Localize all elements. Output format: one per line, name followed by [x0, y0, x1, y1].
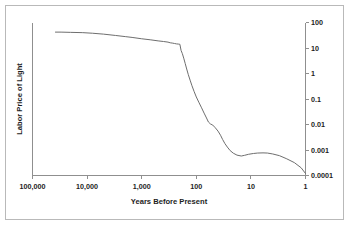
x-tick-label-1: 10,000	[76, 182, 98, 191]
x-tick-label-0: 100,000	[20, 182, 46, 191]
x-tick-label-3: 100	[190, 182, 202, 191]
y-tick-label-2: 1	[311, 69, 315, 78]
y-tick-label-0: 100	[311, 18, 323, 27]
y-tick-label-5: 0.001	[311, 146, 329, 155]
x-tick-label-4: 10	[247, 182, 255, 191]
figure-container: 100,000 10,000 1,000 100 10 1 100 10 1 0…	[0, 0, 350, 226]
y-tick-label-1: 10	[311, 44, 319, 53]
x-axis-title: Years Before Present	[131, 197, 208, 206]
x-tick-labels: 100,000 10,000 1,000 100 10 1	[20, 182, 308, 191]
x-tick-label-2: 1,000	[133, 182, 151, 191]
y-tick-label-4: 0.01	[311, 120, 325, 129]
x-tick-label-5: 1	[304, 182, 308, 191]
data-curve-labor-price-of-light	[55, 32, 305, 173]
y-axis-title: Labor Price of Light	[15, 63, 24, 135]
chart-svg: 100,000 10,000 1,000 100 10 1 100 10 1 0…	[0, 0, 350, 226]
y-tick-label-6: 0.0001	[311, 171, 333, 180]
y-tick-labels: 100 10 1 0.1 0.01 0.001 0.0001	[311, 18, 333, 180]
y-tick-label-3: 0.1	[311, 95, 321, 104]
